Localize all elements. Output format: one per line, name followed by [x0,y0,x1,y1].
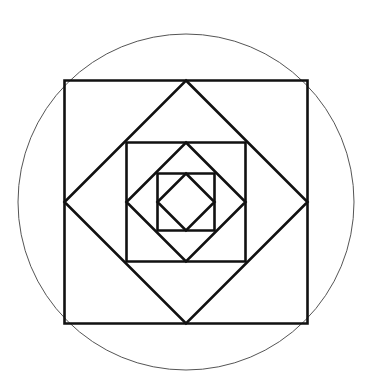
nested-shapes-group [65,81,308,324]
square-4 [158,174,215,231]
diamond-1 [65,81,308,324]
diamond-3 [127,143,246,262]
square-2 [127,143,246,262]
square-0 [65,81,308,324]
diamond-5 [158,174,215,231]
nested-shapes-diagram [0,0,372,391]
outer-circle [18,34,354,370]
